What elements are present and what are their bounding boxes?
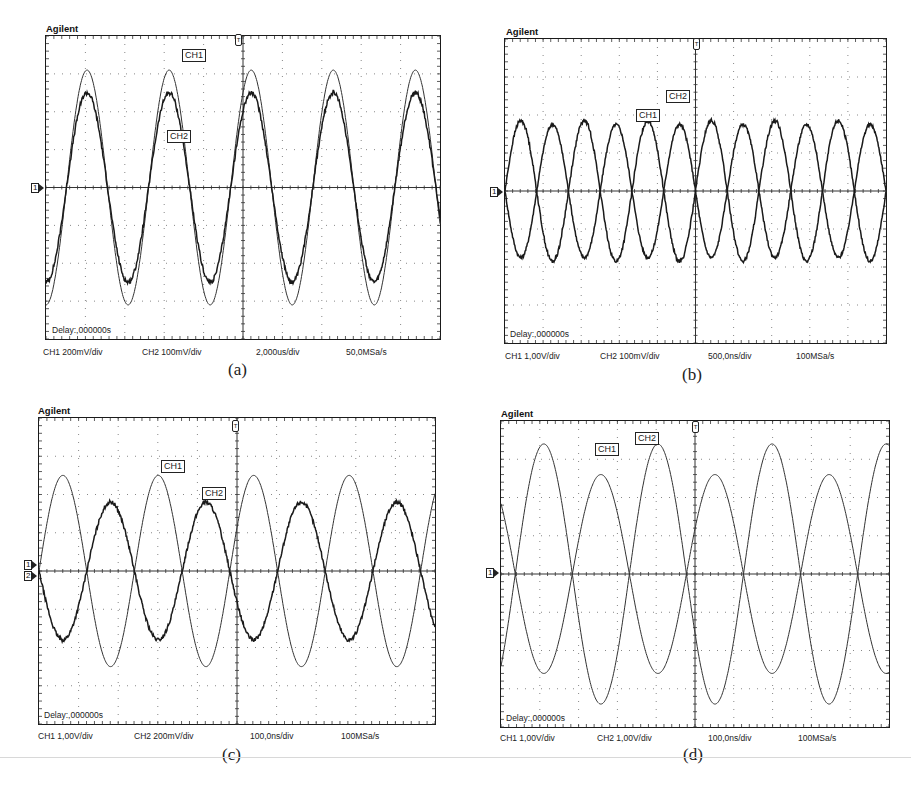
waveform-plot (39, 418, 435, 724)
ch1-scale: CH1 200mV/div (43, 347, 103, 357)
ch2-scale: CH2 1,00V/div (597, 733, 652, 743)
ch2-label: CH2 (635, 432, 659, 445)
sample-rate: 50,0MSa/s (346, 347, 387, 357)
figure-caption: (d) (683, 745, 703, 765)
timebase: 500,0ns/div (708, 351, 751, 361)
ch1-scale: CH1 1,00V/div (505, 351, 560, 361)
brand-label: Agilent (501, 408, 533, 419)
brand-label: Agilent (38, 405, 70, 416)
ch1-label: CH1 (182, 49, 206, 62)
figure-caption: (b) (682, 365, 702, 385)
trigger-marker-icon: T (692, 421, 699, 433)
ch2-scale: CH2 200mV/div (134, 731, 194, 741)
timebase: 2,000us/div (256, 347, 299, 357)
brand-label: Agilent (46, 23, 78, 34)
trigger-marker-icon: T (235, 34, 242, 46)
timebase: 100,0ns/div (250, 731, 293, 741)
ch1-label: CH1 (636, 109, 660, 122)
ground-marker-ch2-icon: 2 (24, 571, 32, 581)
waveform-plot (46, 36, 440, 339)
ch2-label: CH2 (666, 90, 690, 103)
oscilloscope-screen: Delay:,000000s T CH1 CH2 (504, 38, 887, 344)
ch2-label: CH2 (167, 130, 191, 143)
oscilloscope-screen: Delay:,000000s T CH1 CH2 (38, 417, 436, 725)
sample-rate: 100MSa/s (798, 733, 836, 743)
waveform-plot (505, 39, 886, 343)
waveform-plot (501, 421, 889, 727)
delay-readout: Delay:,000000s (52, 325, 111, 335)
timebase: 100,0ns/div (708, 733, 751, 743)
ch2-label: CH2 (202, 487, 226, 500)
ch1-scale: CH1 1,00V/div (500, 733, 555, 743)
brand-label: Agilent (506, 26, 538, 37)
ground-marker-icon: 1 (486, 568, 494, 578)
ground-marker-ch1-icon: 1 (24, 560, 32, 570)
ch1-scale: CH1 1,00V/div (38, 731, 93, 741)
sample-rate: 100MSa/s (341, 731, 379, 741)
oscilloscope-screen: Delay:,000000s T CH1 CH2 (45, 35, 441, 340)
ch2-scale: CH2 100mV/div (142, 347, 202, 357)
figure-caption: (a) (228, 360, 247, 380)
ch1-label: CH1 (595, 443, 619, 456)
divider (0, 757, 911, 758)
sample-rate: 100MSa/s (796, 351, 834, 361)
ch1-label: CH1 (161, 460, 185, 473)
delay-readout: Delay:,000000s (506, 713, 565, 723)
trigger-marker-icon: T (693, 38, 700, 50)
oscilloscope-screen: Delay:,000000s T CH1 CH2 (500, 420, 890, 728)
trigger-marker-icon: T (232, 420, 239, 432)
delay-readout: Delay:,000000s (510, 329, 569, 339)
ground-marker-icon: 1 (31, 183, 39, 193)
ground-marker-icon: 1 (490, 187, 498, 197)
delay-readout: Delay:,000000s (44, 710, 103, 720)
ch2-scale: CH2 100mV/div (600, 351, 660, 361)
figure-caption: (c) (222, 745, 241, 765)
